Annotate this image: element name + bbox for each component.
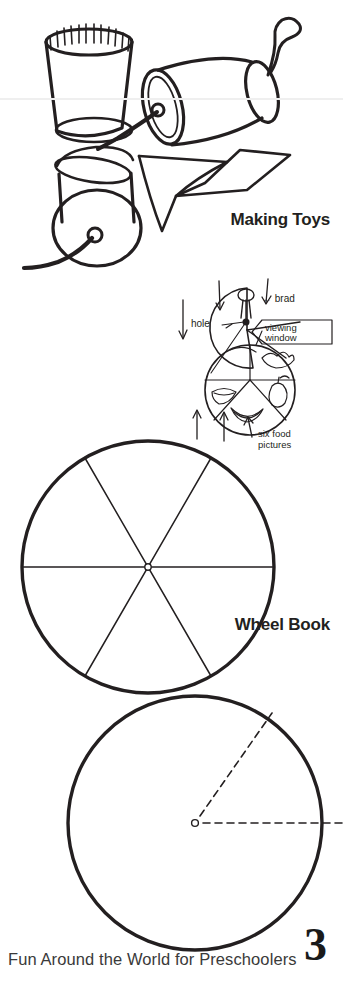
plain-circle-template bbox=[0, 0, 343, 982]
dashed-radius-diagonal bbox=[200, 713, 272, 816]
page-number: 3 bbox=[304, 922, 327, 968]
book-page: Making Toys bbox=[0, 0, 343, 982]
center-hole bbox=[192, 820, 199, 827]
footer-title: Fun Around the World for Preschoolers bbox=[8, 950, 297, 969]
